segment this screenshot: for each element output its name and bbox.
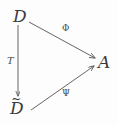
vertex-d-text: D: [13, 6, 27, 26]
arrow-label-t: T: [7, 56, 14, 66]
accented-glyph-wrapper: ~ D: [10, 100, 24, 117]
vertex-a-text: A: [98, 52, 110, 72]
vertex-label-d: D: [13, 8, 27, 25]
vertex-label-a: A: [98, 54, 110, 71]
arrow-label-psi: Ψ: [62, 89, 70, 98]
arrow-label-phi: Φ: [62, 24, 69, 33]
vertex-label-d-tilde: ~ D: [10, 100, 24, 117]
tilde-accent-icon: ~: [11, 93, 21, 105]
commutative-diagram: D ~ D A Φ T Ψ: [0, 0, 117, 125]
